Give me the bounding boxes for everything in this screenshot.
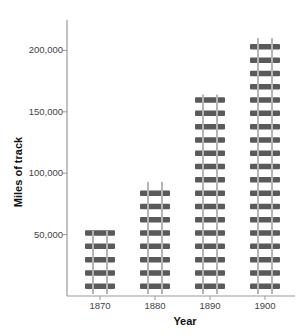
track-tie — [195, 151, 225, 157]
track-tie — [195, 284, 225, 290]
track-tie — [85, 270, 115, 276]
track-tie — [250, 204, 280, 210]
track-tie — [250, 57, 280, 63]
track-rail — [271, 38, 273, 294]
track-tie — [85, 230, 115, 236]
track-rail — [147, 182, 149, 294]
track-tie — [250, 97, 280, 103]
y-tick-label: 50,000 — [9, 229, 63, 240]
track-tie — [140, 190, 170, 196]
track-tie — [250, 270, 280, 276]
track-tie — [140, 270, 170, 276]
track-rail — [216, 95, 218, 294]
track-tie — [85, 284, 115, 290]
track-rail — [92, 231, 94, 294]
track-tie — [195, 204, 225, 210]
track-tie — [250, 124, 280, 129]
track-tie — [250, 244, 280, 250]
track-tie — [250, 217, 280, 223]
track-tie — [250, 177, 280, 183]
track-tie — [250, 71, 280, 77]
track-tie — [195, 190, 225, 196]
track-tie — [250, 111, 280, 117]
track-tie — [250, 151, 280, 157]
track-tie — [250, 84, 280, 90]
track-rail — [202, 95, 204, 294]
x-axis-title: Year — [160, 315, 210, 327]
track-tie — [250, 44, 280, 50]
track-tie — [195, 137, 225, 143]
track-rail — [257, 38, 259, 294]
track-tie — [85, 244, 115, 250]
track-rail — [161, 182, 163, 294]
track-tie — [250, 164, 280, 170]
y-tick-label: 150,000 — [9, 106, 63, 117]
track-tie — [195, 97, 225, 103]
track-tie — [140, 217, 170, 223]
track-tie — [250, 230, 280, 236]
x-tick-label: 1880 — [135, 300, 175, 311]
track-tie — [195, 124, 225, 129]
y-axis-title: Miles of track — [12, 132, 24, 212]
track-tie — [195, 177, 225, 183]
track-tie — [195, 111, 225, 117]
x-tick-label: 1890 — [190, 300, 230, 311]
chart: 50,000100,000150,000200,000 187018801890… — [0, 0, 308, 336]
y-tick-label: 200,000 — [9, 44, 63, 55]
track-tie — [140, 244, 170, 250]
track-tie — [85, 257, 115, 263]
track-tie — [140, 284, 170, 290]
track-tie — [250, 284, 280, 290]
x-tick-label: 1870 — [80, 300, 120, 311]
track-tie — [250, 190, 280, 196]
track-tie — [195, 217, 225, 223]
track-tie — [195, 230, 225, 236]
track-tie — [195, 270, 225, 276]
track-rail — [106, 231, 108, 294]
track-tie — [140, 257, 170, 263]
track-tie — [195, 257, 225, 263]
track-tie — [195, 164, 225, 170]
track-tie — [140, 230, 170, 236]
x-tick-label: 1900 — [245, 300, 285, 311]
track-tie — [250, 257, 280, 263]
track-tie — [250, 137, 280, 143]
track-tie — [195, 244, 225, 250]
track-tie — [140, 204, 170, 210]
